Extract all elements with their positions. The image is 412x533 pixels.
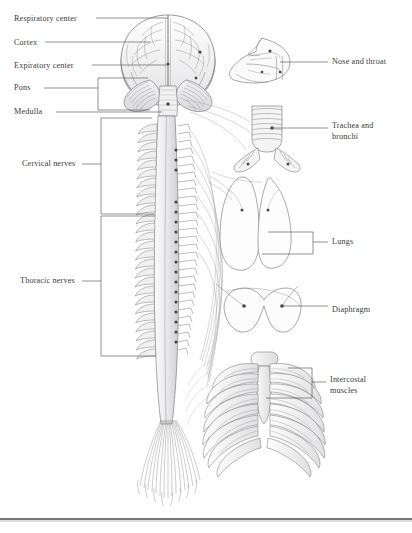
anatomy-illustration [0,0,412,533]
ribcage-illustration [186,352,325,477]
label-trachea-and-bronchi-line1: Trachea and [332,121,374,132]
label-diaphragm: Diaphragm [332,305,370,316]
label-intercostal-muscles-line2: muscles [330,386,357,397]
label-respiratory-center: Respiratory center [14,14,77,25]
label-pons: Pons [14,83,31,94]
diaphragm-illustration [216,284,301,332]
label-trachea-and-bronchi-line2: bronchi [332,132,358,143]
label-intercostal-muscles-line1: Intercostal [330,375,366,386]
label-medulla: Medulla [14,107,42,118]
label-lungs: Lungs [332,237,353,248]
head-sagittal-illustration [230,38,290,83]
label-cortex: Cortex [14,38,37,49]
label-expiratory-center: Expiratory center [14,61,74,72]
label-thoracic-nerves: Thoracic nerves [20,276,75,287]
brain-illustration [121,15,215,116]
figure-page: Respiratory center Cortex Expiratory cen… [0,0,412,533]
label-nose-and-throat: Nose and throat [332,57,386,68]
label-cervical-nerves: Cervical nerves [22,159,75,170]
